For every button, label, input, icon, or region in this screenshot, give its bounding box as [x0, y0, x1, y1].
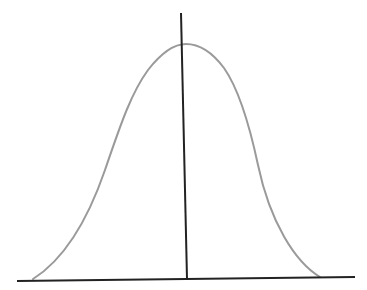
bell-curve-diagram	[0, 0, 367, 290]
bell-curve-canvas	[0, 0, 367, 290]
